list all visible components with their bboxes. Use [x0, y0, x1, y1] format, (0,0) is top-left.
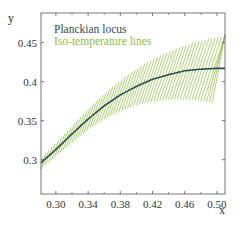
- legend: Planckian locus Iso-temperature lines: [54, 23, 152, 48]
- legend-iso-label: Iso-temperature lines: [54, 35, 152, 48]
- x-tick-label: 0.30: [46, 198, 66, 210]
- x-tick-label: 0.34: [78, 198, 98, 210]
- legend-locus-label: Planckian locus: [54, 23, 127, 35]
- y-tick-label: 0.35: [18, 115, 38, 127]
- x-tick-label: 0.46: [175, 198, 195, 210]
- x-tick-label: 0.38: [111, 198, 131, 210]
- iso-temperature-lines: [41, 34, 225, 169]
- y-tick-label: 0.45: [18, 37, 38, 49]
- chart: 0.300.340.380.420.460.50 0.30.350.40.45 …: [0, 0, 249, 225]
- y-axis-label: y: [8, 11, 14, 25]
- y-tick-label: 0.4: [23, 76, 37, 88]
- x-tick-label: 0.42: [143, 198, 162, 210]
- x-axis-label: x: [219, 203, 225, 217]
- y-axis-ticks: 0.30.350.40.45: [18, 37, 225, 166]
- y-tick-label: 0.3: [23, 154, 37, 166]
